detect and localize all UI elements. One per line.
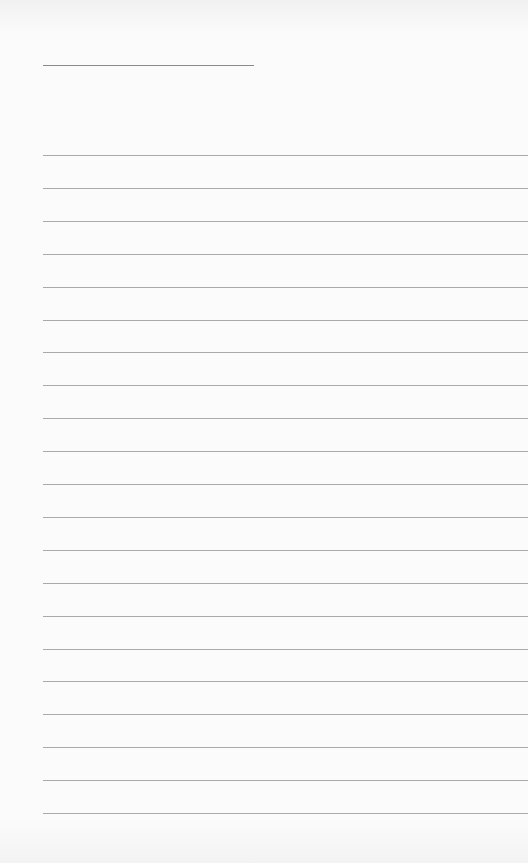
ruled-line xyxy=(43,155,528,156)
ruled-line xyxy=(43,221,528,222)
ruled-line xyxy=(43,451,528,452)
ruled-line xyxy=(43,747,528,748)
ruled-line xyxy=(43,616,528,617)
ruled-line xyxy=(43,649,528,650)
ruled-line xyxy=(43,583,528,584)
ruled-line xyxy=(43,254,528,255)
ruled-line xyxy=(43,550,528,551)
ruled-line xyxy=(43,714,528,715)
ruled-line xyxy=(43,780,528,781)
ruled-line xyxy=(43,287,528,288)
ruled-line xyxy=(43,320,528,321)
ruled-line xyxy=(43,385,528,386)
page-bottom-edge xyxy=(0,818,528,863)
ruled-line xyxy=(43,352,528,353)
ruled-line xyxy=(43,517,528,518)
ruled-line xyxy=(43,484,528,485)
ruled-line xyxy=(43,813,528,814)
ruled-line xyxy=(43,188,528,189)
ruled-lines xyxy=(43,0,528,863)
ruled-line xyxy=(43,418,528,419)
ruled-line xyxy=(43,681,528,682)
